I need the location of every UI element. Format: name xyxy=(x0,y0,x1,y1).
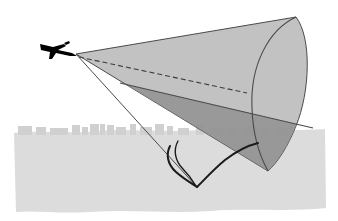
mach-cone-figure xyxy=(0,0,338,221)
mach-cone-diagram-svg xyxy=(0,0,338,221)
